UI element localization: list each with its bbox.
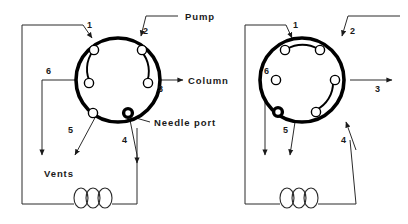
right-port-6: [271, 75, 280, 84]
right-vent-line-port5: [290, 122, 295, 155]
right-port-2: [315, 45, 324, 54]
left-needle-port: [124, 109, 133, 118]
left-vent-line-port5: [75, 114, 97, 155]
left-port-number-1: 1: [87, 20, 92, 30]
left-port-number-6: 6: [46, 66, 51, 76]
left-port-5: [88, 108, 97, 117]
figure-canvas: Pump Column Needle port Vents 1 2 3 4 5 …: [0, 0, 408, 224]
left-port-number-4: 4: [122, 135, 127, 145]
right-needle-port: [274, 108, 283, 117]
left-valve-group: [22, 16, 183, 208]
right-port-number-5: 5: [283, 125, 288, 135]
left-loop-line-port4: [112, 120, 137, 204]
left-sample-loop-coil: [74, 188, 112, 208]
left-port-number-3: 3: [158, 84, 163, 94]
right-loop-line-port1: [245, 25, 292, 38]
right-port-number-3: 3: [375, 84, 380, 94]
right-port-number-6: 6: [264, 66, 269, 76]
right-port-4: [311, 107, 320, 116]
label-column: Column: [188, 75, 229, 86]
left-port-3: [143, 78, 152, 87]
right-sample-loop-coil: [280, 188, 318, 208]
left-loop-line-port1: [22, 25, 92, 38]
right-port-number-4: 4: [341, 135, 346, 145]
right-valve-group: [245, 16, 400, 208]
left-port-number-2: 2: [143, 26, 148, 36]
right-port-1: [280, 45, 289, 54]
left-port-number-5: 5: [68, 125, 73, 135]
label-needle-port: Needle port: [154, 117, 216, 128]
left-port-1: [89, 45, 98, 54]
right-port-3: [330, 75, 339, 84]
right-loop-line-port4: [318, 140, 356, 204]
left-port-6: [84, 78, 93, 87]
right-port-number-2: 2: [350, 26, 355, 36]
valve-diagram-svg: Pump Column Needle port Vents 1 2 3 4 5 …: [0, 0, 408, 224]
label-pump: Pump: [185, 11, 215, 22]
left-port-2: [137, 45, 146, 54]
right-port-number-1: 1: [293, 20, 298, 30]
label-vents: Vents: [44, 168, 74, 179]
